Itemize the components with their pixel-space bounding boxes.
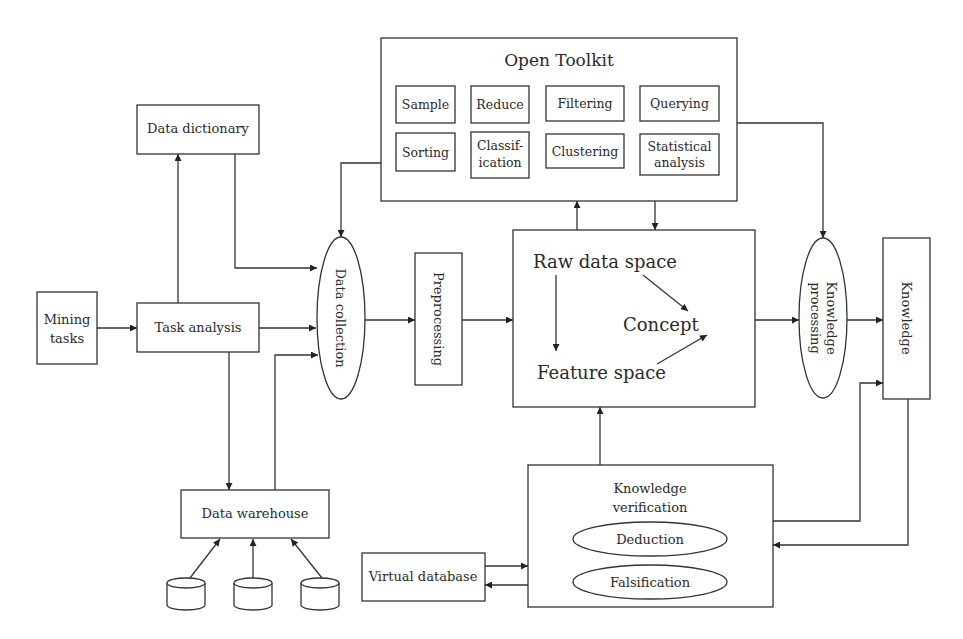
svg-text:Falsification: Falsification	[610, 575, 691, 590]
task-analysis-box: Task analysis	[137, 303, 259, 352]
svg-text:Preprocessing: Preprocessing	[431, 272, 446, 366]
tool-filtering: Filtering	[546, 86, 624, 121]
data-collection-ellipse: Data collection	[317, 237, 365, 399]
svg-text:Filtering: Filtering	[557, 96, 612, 111]
knowledge-verification-box: Knowledge verification Deduction Falsifi…	[528, 465, 773, 607]
tool-querying: Querying	[640, 86, 719, 121]
svg-text:Mining: Mining	[44, 312, 91, 327]
database-icon	[234, 578, 272, 610]
concept-label: Concept	[623, 314, 699, 335]
tool-sorting: Sorting	[396, 133, 455, 171]
svg-text:Querying: Querying	[650, 96, 709, 111]
tool-clustering: Clustering	[546, 134, 624, 168]
svg-text:Clustering: Clustering	[552, 144, 618, 159]
falsification-ellipse: Falsification	[573, 565, 727, 599]
svg-text:Statistical: Statistical	[648, 139, 712, 154]
tool-statistical-analysis: Statistical analysis	[640, 134, 719, 175]
data-dictionary-box: Data dictionary	[137, 105, 259, 154]
open-toolkit-title: Open Toolkit	[504, 50, 614, 70]
svg-text:Knowledge: Knowledge	[824, 281, 839, 355]
svg-text:Sorting: Sorting	[402, 145, 449, 160]
svg-text:Data warehouse: Data warehouse	[201, 506, 308, 521]
svg-text:Deduction: Deduction	[616, 532, 684, 547]
svg-text:Virtual database: Virtual database	[368, 569, 478, 584]
svg-text:analysis: analysis	[654, 155, 705, 170]
preprocessing-box: Preprocessing	[415, 253, 462, 385]
open-toolkit-panel: Open Toolkit Sample Reduce Filtering Que…	[381, 38, 737, 201]
svg-text:tasks: tasks	[50, 331, 84, 346]
svg-text:Knowledge: Knowledge	[899, 281, 914, 355]
virtual-database-box: Virtual database	[362, 553, 485, 601]
raw-data-space-label: Raw data space	[533, 251, 677, 272]
svg-text:Classif-: Classif-	[477, 138, 523, 153]
data-warehouse-box: Data warehouse	[181, 490, 329, 538]
knowledge-processing-ellipse: Knowledge processing	[799, 238, 847, 398]
knowledge-box: Knowledge	[883, 238, 930, 399]
svg-text:verification: verification	[612, 500, 688, 515]
svg-text:Knowledge: Knowledge	[613, 481, 687, 496]
svg-text:Reduce: Reduce	[476, 97, 523, 112]
deduction-ellipse: Deduction	[573, 522, 727, 556]
database-icon	[301, 578, 339, 610]
svg-text:ication: ication	[478, 155, 521, 170]
database-icon	[167, 578, 205, 610]
svg-text:processing: processing	[808, 282, 823, 354]
tool-sample: Sample	[396, 86, 455, 123]
tool-reduce: Reduce	[471, 86, 529, 123]
svg-text:Task analysis: Task analysis	[155, 320, 242, 335]
svg-text:Data collection: Data collection	[333, 268, 348, 368]
svg-text:Sample: Sample	[402, 97, 449, 112]
mining-core-box: Raw data space Concept Feature space	[513, 230, 755, 407]
data-mining-process-diagram: Open Toolkit Sample Reduce Filtering Que…	[0, 0, 963, 639]
mining-tasks-box: Mining tasks	[37, 292, 97, 364]
tool-classification: Classif- ication	[471, 132, 529, 178]
svg-text:Data dictionary: Data dictionary	[147, 121, 250, 136]
feature-space-label: Feature space	[537, 362, 666, 383]
